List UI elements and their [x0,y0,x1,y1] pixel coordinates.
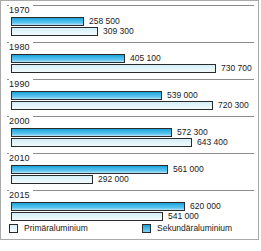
bar-row-secondary-1990: 539 000 [11,91,232,100]
legend-item-primaeraluminium: Primäraluminium [9,221,142,235]
bar-primary-1980[interactable] [11,64,216,73]
bar-row-primary-1980: 730 700 [11,64,259,73]
year-label-2000: 2000 [9,116,33,126]
bar-primary-2015[interactable] [11,212,163,221]
legend-swatch-primary-icon [9,224,18,233]
value-label-primary-2000: 643 400 [197,137,228,147]
bar-row-primary-2000: 643 400 [11,138,259,147]
bar-group-1990: 1990539 000720 300 [1,79,258,112]
value-label-secondary-2015: 620 000 [190,201,221,211]
caption-strip [0,243,261,251]
bar-row-secondary-2015: 620 000 [11,202,255,211]
group-separator-rule [7,116,254,117]
value-label-primary-1970: 309 300 [103,26,134,36]
bar-row-primary-2015: 541 000 [11,212,233,221]
value-label-primary-2015: 541 000 [168,211,199,221]
value-label-primary-2010: 292 000 [98,174,129,184]
bar-row-secondary-2000: 572 300 [11,128,242,137]
legend-swatch-secondary-icon [142,224,151,233]
value-label-secondary-2000: 572 300 [177,127,208,137]
value-label-secondary-1970: 258 500 [89,16,120,26]
chart-container: 1970258 500309 3001980405 100730 7001990… [0,0,259,240]
bar-row-primary-2010: 292 000 [11,175,163,184]
group-separator-rule [7,42,254,43]
year-label-1980: 1980 [9,42,33,52]
legend-label-sekundaeraluminium: Sekundäraluminium [157,223,232,233]
year-label-2015: 2015 [9,190,33,200]
group-separator-rule [7,190,254,191]
group-separator-rule [7,5,254,6]
bar-group-2015: 2015620 000541 000 [1,190,258,223]
bar-row-secondary-1970: 258 500 [11,17,154,26]
group-separator-rule [7,79,254,80]
legend-item-sekundaeraluminium: Sekundäraluminium [142,221,232,235]
bar-group-1970: 1970258 500309 300 [1,5,258,38]
bar-row-primary-1970: 309 300 [11,27,168,36]
bar-row-secondary-2010: 561 000 [11,165,238,174]
bar-secondary-2015[interactable] [11,202,185,211]
year-label-1970: 1970 [9,5,33,15]
bar-row-primary-1990: 720 300 [11,101,259,110]
value-label-primary-1990: 720 300 [218,100,249,110]
bar-secondary-2010[interactable] [11,165,168,174]
bar-group-1980: 1980405 100730 700 [1,42,258,75]
bar-secondary-2000[interactable] [11,128,172,137]
value-label-secondary-1980: 405 100 [130,53,161,63]
year-label-2010: 2010 [9,153,33,163]
value-label-secondary-1990: 539 000 [167,90,198,100]
chart-legend: Primäraluminium Sekundäraluminium [9,221,253,235]
value-label-primary-1980: 730 700 [221,63,252,73]
bar-group-2010: 2010561 000292 000 [1,153,258,186]
bar-primary-1970[interactable] [11,27,98,36]
bar-group-2000: 2000572 300643 400 [1,116,258,149]
bar-primary-2000[interactable] [11,138,192,147]
bar-secondary-1990[interactable] [11,91,162,100]
year-label-1990: 1990 [9,79,33,89]
bar-primary-2010[interactable] [11,175,93,184]
value-label-secondary-2010: 561 000 [173,164,204,174]
group-separator-rule [7,153,254,154]
bar-row-secondary-1980: 405 100 [11,54,195,63]
bar-secondary-1970[interactable] [11,17,84,26]
legend-label-primaeraluminium: Primäraluminium [24,223,88,233]
bar-secondary-1980[interactable] [11,54,125,63]
bar-primary-1990[interactable] [11,101,213,110]
